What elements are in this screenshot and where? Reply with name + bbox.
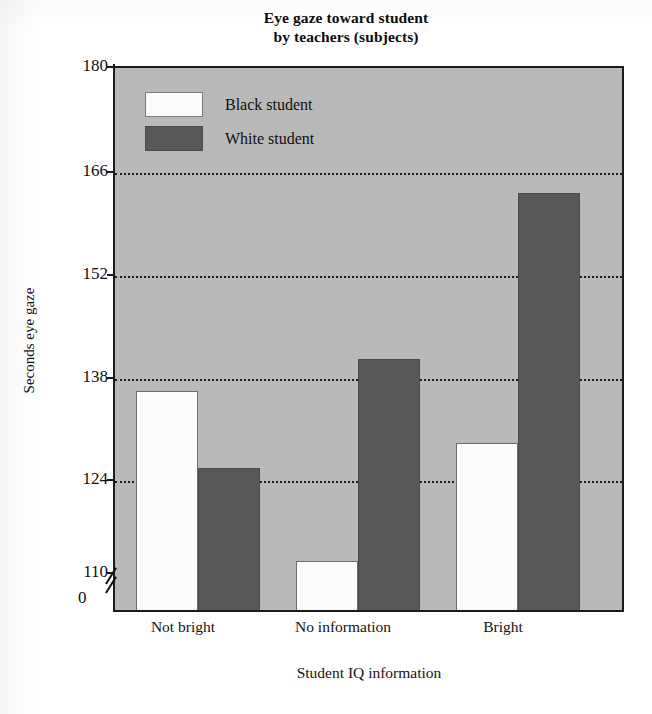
y-tick-mark-166 — [107, 171, 115, 173]
bar-not-bright-black-student — [136, 391, 198, 612]
chart-legend: Black student White student — [145, 90, 375, 158]
y-tick-label-180: 180 — [48, 56, 108, 76]
x-axis-spine — [113, 610, 622, 612]
y-tick-mark-124 — [107, 479, 115, 481]
y-tick-label-110: 110 — [48, 562, 108, 582]
y-tick-label-138: 138 — [48, 367, 108, 387]
bar-no-information-black-student — [296, 561, 358, 612]
y-axis-title: Seconds eye gaze — [21, 241, 38, 441]
legend-item-black-student: Black student — [145, 90, 375, 119]
chart-title-line-1: Eye gaze toward student — [264, 9, 429, 26]
legend-label-white-student: White student — [225, 130, 314, 148]
x-tick-label-not-bright: Not bright — [93, 618, 273, 636]
chart-title: Eye gaze toward student by teachers (sub… — [186, 8, 506, 46]
axis-break-icon — [106, 566, 126, 596]
x-axis-title: Student IQ information — [116, 664, 622, 682]
legend-item-white-student: White student — [145, 124, 375, 153]
x-tick-label-bright: Bright — [413, 618, 593, 636]
chart-title-line-2: by teachers (subjects) — [186, 27, 506, 46]
y-tick-mark-138 — [107, 377, 115, 379]
legend-label-black-student: Black student — [225, 96, 313, 114]
x-tick-label-no-information: No information — [253, 618, 433, 636]
bar-bright-black-student — [456, 443, 518, 612]
bar-no-information-white-student — [358, 359, 420, 612]
gridline-166 — [115, 173, 622, 175]
figure-eye-gaze-bar-chart: Eye gaze toward student by teachers (sub… — [0, 0, 652, 714]
y-axis-tick-labels: 180 166 152 138 124 110 — [38, 0, 108, 714]
y-axis-spine — [113, 64, 115, 612]
bar-bright-white-student — [518, 193, 580, 612]
y-tick-label-166: 166 — [48, 161, 108, 181]
legend-swatch-white-student — [145, 126, 203, 151]
y-tick-label-124: 124 — [48, 469, 108, 489]
y-tick-label-zero: 0 — [78, 588, 87, 608]
y-tick-mark-180 — [107, 66, 115, 68]
legend-swatch-black-student — [145, 92, 203, 117]
y-tick-label-152: 152 — [48, 264, 108, 284]
bar-not-bright-white-student — [198, 468, 260, 612]
y-tick-mark-152 — [107, 274, 115, 276]
